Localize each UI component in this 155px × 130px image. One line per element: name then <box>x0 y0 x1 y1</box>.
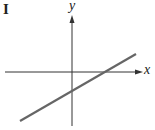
y-axis <box>70 15 75 126</box>
graph <box>0 0 155 130</box>
plotted-line <box>20 54 136 121</box>
x-axis <box>5 70 143 75</box>
y-axis-arrow-icon <box>70 15 75 23</box>
x-axis-arrow-icon <box>135 70 143 75</box>
